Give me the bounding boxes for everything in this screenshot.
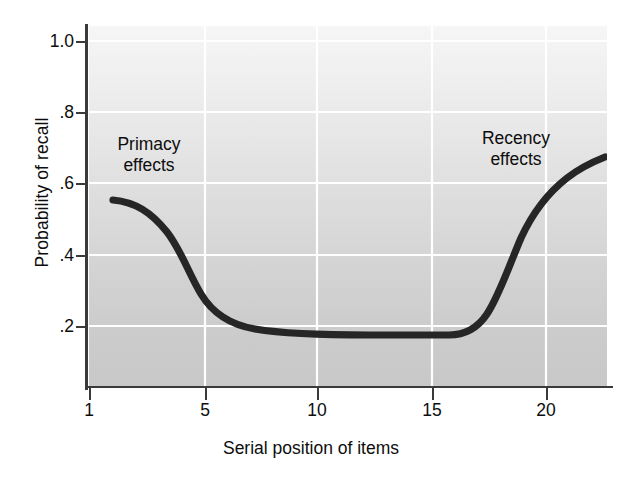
x-tick-mark-20 [546, 388, 548, 400]
x-tick-mark-1 [89, 388, 91, 400]
x-tick-mark-10 [317, 388, 319, 400]
horizontal-gridlines [89, 41, 607, 326]
serial-position-curve-figure: Probability of recall 1.0 .8 .6 .4 .2 1 … [0, 0, 622, 480]
x-tick-mark-5 [205, 388, 207, 400]
x-axis-line [85, 386, 613, 388]
annotation-recency-effects: Recency effects [467, 128, 565, 171]
x-tick-mark-15 [432, 388, 434, 400]
x-axis-title: Serial position of items [0, 438, 622, 459]
plot-area: Primacy effects Recency effects [89, 26, 607, 386]
plot-svg [89, 26, 607, 386]
y-axis-line [85, 24, 88, 390]
annotation-primacy-effects: Primacy effects [101, 134, 197, 177]
